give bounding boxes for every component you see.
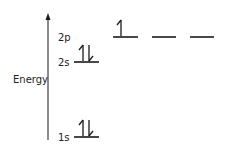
level-label-2s: 2s [58,58,70,68]
level-label-1s: 1s [58,133,70,143]
axis-arrowhead-icon [46,13,51,20]
electron-down-arrow-icon [89,45,93,61]
level-2p-orbitals [113,20,214,37]
electron-up-arrow-icon [117,20,121,36]
level-label-2p: 2p [58,33,71,43]
level-1s-orbital [74,120,99,137]
electron-down-arrow-icon [89,120,93,136]
level-2s-orbital [74,45,99,62]
energy-axis-label: Energy [13,75,48,85]
electron-up-arrow-icon [79,120,83,136]
electron-up-arrow-icon [79,45,83,61]
